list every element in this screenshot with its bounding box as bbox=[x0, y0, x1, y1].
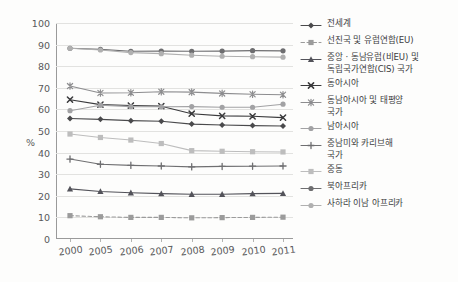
legend-item-label: 선진국 및 유럽연합(EU) bbox=[327, 35, 414, 47]
y-tick-label: 90 bbox=[38, 39, 50, 50]
series-2 bbox=[67, 213, 285, 220]
legend-item[interactable]: 선진국 및 유럽연합(EU) bbox=[300, 35, 452, 49]
x-tick bbox=[131, 239, 132, 242]
y-tick-label: 30 bbox=[38, 169, 50, 180]
legend-marker-icon bbox=[300, 139, 322, 152]
legend-item-label: 남아시아 bbox=[327, 121, 359, 133]
series-7 bbox=[67, 156, 286, 170]
y-tick-label: 70 bbox=[38, 82, 50, 93]
x-tick bbox=[70, 239, 71, 242]
legend-item[interactable]: 북아프리카 bbox=[300, 181, 452, 195]
legend-item-label: 중동 bbox=[327, 164, 343, 176]
x-tick-label: 2011 bbox=[271, 244, 296, 258]
x-tick bbox=[283, 239, 284, 242]
x-tick bbox=[253, 239, 254, 242]
x-tick-label: 2007 bbox=[149, 244, 174, 258]
y-tick-label: 50 bbox=[38, 126, 50, 137]
x-tick bbox=[192, 239, 193, 242]
legend-item[interactable]: 중남미와 카리브해 국가 bbox=[300, 138, 452, 161]
series-6 bbox=[67, 102, 285, 114]
legend-item-label: 동남아시아 및 태평양 국가 bbox=[327, 95, 403, 118]
series-layer bbox=[56, 23, 293, 239]
legend-marker-icon bbox=[300, 36, 322, 49]
legend-item-label: 사하라 이남 아프리카 bbox=[327, 198, 403, 210]
legend-item[interactable]: 중앙 · 동남유럽(비EU) 및 독립국가연합(CIS) 국가 bbox=[300, 52, 452, 75]
y-tick-label: 10 bbox=[38, 212, 50, 223]
x-tick-label: 2006 bbox=[119, 244, 144, 258]
legend-marker-icon bbox=[300, 199, 322, 212]
chart-legend: 전세계선진국 및 유럽연합(EU)중앙 · 동남유럽(비EU) 및 독립국가연합… bbox=[300, 18, 452, 215]
legend-marker-icon bbox=[300, 53, 322, 66]
legend-marker-icon bbox=[300, 96, 322, 109]
plot-area: 0102030405060708090100 20002005200620072… bbox=[56, 23, 293, 239]
legend-marker-icon bbox=[300, 122, 322, 135]
x-tick-label: 2009 bbox=[210, 244, 235, 258]
series-5 bbox=[67, 83, 285, 98]
line-chart: 0102030405060708090100 20002005200620072… bbox=[0, 0, 458, 282]
legend-item-label: 동아시아 bbox=[327, 78, 359, 90]
x-tick-label: 2008 bbox=[180, 244, 205, 258]
y-tick-label: 60 bbox=[38, 104, 50, 115]
x-tick-label: 2010 bbox=[241, 244, 266, 258]
series-3 bbox=[67, 186, 286, 197]
series-8 bbox=[67, 131, 285, 154]
x-tick-label: 2005 bbox=[88, 244, 113, 258]
legend-item-label: 전세계 bbox=[327, 18, 351, 30]
legend-marker-icon bbox=[300, 165, 322, 178]
legend-item-label: 북아프리카 bbox=[327, 181, 367, 193]
x-tick bbox=[222, 239, 223, 242]
legend-item-label: 중앙 · 동남유럽(비EU) 및 독립국가연합(CIS) 국가 bbox=[327, 52, 419, 75]
x-tick bbox=[100, 239, 101, 242]
legend-marker-icon bbox=[300, 19, 322, 32]
y-tick-label: 20 bbox=[38, 190, 50, 201]
y-axis-unit-label: % bbox=[26, 137, 35, 148]
legend-item[interactable]: 사하라 이남 아프리카 bbox=[300, 198, 452, 212]
x-tick bbox=[161, 239, 162, 242]
legend-marker-icon bbox=[300, 182, 322, 195]
legend-item[interactable]: 동아시아 bbox=[300, 78, 452, 92]
legend-item[interactable]: 남아시아 bbox=[300, 121, 452, 135]
legend-marker-icon bbox=[300, 79, 322, 92]
y-tick-label: 80 bbox=[38, 61, 50, 72]
legend-item[interactable]: 동남아시아 및 태평양 국가 bbox=[300, 95, 452, 118]
legend-item[interactable]: 중동 bbox=[300, 164, 452, 178]
legend-item[interactable]: 전세계 bbox=[300, 18, 452, 32]
y-tick-label: 0 bbox=[44, 234, 50, 245]
y-tick-label: 100 bbox=[32, 18, 50, 29]
y-tick-label: 40 bbox=[38, 147, 50, 158]
x-tick-label: 2000 bbox=[58, 244, 83, 258]
legend-item-label: 중남미와 카리브해 국가 bbox=[327, 138, 393, 161]
